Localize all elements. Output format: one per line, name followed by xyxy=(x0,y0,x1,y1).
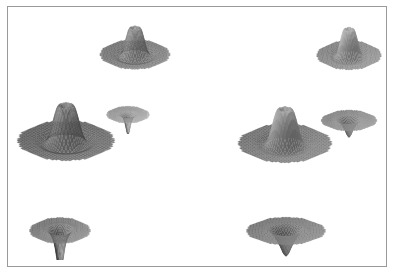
surface-plot-left-bottom xyxy=(26,190,94,260)
surface-plot-left-top xyxy=(96,8,174,88)
surface-plot-left-large xyxy=(12,78,120,186)
surface-plot-right-top xyxy=(313,10,385,88)
surface-plot-right-large xyxy=(233,83,337,187)
surface-plot-right-bottom xyxy=(242,188,330,262)
figure-root xyxy=(0,0,394,274)
